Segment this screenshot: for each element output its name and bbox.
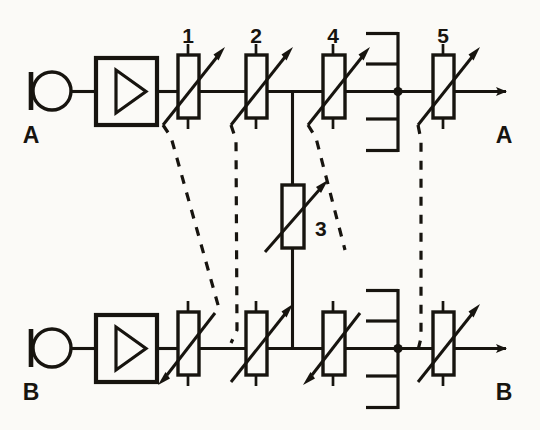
channel-b-junction-dot [393,344,402,353]
attenuator-chain-diagram: 1 2 4 [0,0,540,430]
attenuator-3: 3 [265,180,328,252]
attenuator-5-label: 5 [437,24,449,47]
attenuator-5: 5 [418,24,480,129]
port-label-b-input: B [23,379,40,405]
attenuator-b2 [231,301,293,386]
channel-b-group: B B [23,289,513,409]
attenuator-b1 [158,301,215,386]
schematic-canvas: 1 2 4 [0,0,540,430]
attenuator-2: 2 [231,24,293,129]
ganged-link-2 [231,125,237,343]
channel-a-amplifier [96,58,157,125]
attenuator-4: 4 [308,24,370,129]
channel-b-input-terminal [31,329,71,367]
attenuator-1: 1 [163,24,225,129]
port-label-b-output: B [496,379,513,405]
channel-a-group: 1 2 4 [23,24,513,152]
attenuator-1-label: 1 [182,24,194,47]
port-label-a-input: A [23,122,40,148]
ganged-link-1 [163,125,220,312]
channel-b-amplifier [96,315,157,382]
shared-bridge-branch: 3 [265,92,328,349]
attenuator-3-label: 3 [315,217,327,240]
attenuator-2-label: 2 [250,24,262,47]
port-label-a-output: A [496,122,513,148]
channel-a-input-terminal [31,72,71,110]
attenuator-4-label: 4 [327,24,339,47]
channel-a-junction-dot [393,87,402,96]
attenuator-b5 [418,301,480,386]
attenuator-b4 [303,301,360,386]
ganged-link-5 [418,125,421,350]
